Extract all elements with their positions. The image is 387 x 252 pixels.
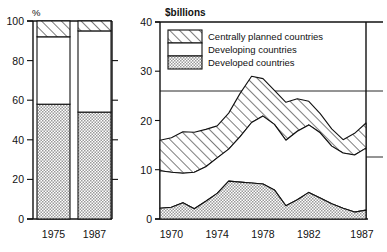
bar-1975: [37, 21, 70, 219]
left-chart-axis-title: %: [32, 7, 41, 18]
legend-swatch-developing: [168, 43, 202, 56]
right-ytick-label-40: 40: [140, 16, 152, 28]
figure-svg: % 100 80 60 40 20: [0, 0, 387, 252]
legend-swatch-centrally-planned: [168, 30, 202, 43]
right-xtick-label-1974: 1974: [206, 228, 230, 240]
bar-1987-developed: [78, 112, 111, 219]
right-xtick-label-1970: 1970: [160, 228, 184, 240]
bar-1975-centrally-planned: [37, 21, 70, 37]
right-chart: $billions 40 30 20 10 0: [140, 7, 383, 240]
legend-label-centrally-planned: Centrally planned countries: [208, 31, 323, 42]
right-xtick-label-1987: 1987: [350, 228, 374, 240]
legend: Centrally planned countries Developing c…: [168, 30, 323, 69]
right-ytick-label-30: 30: [140, 65, 152, 77]
legend-label-developed: Developed countries: [208, 57, 295, 68]
left-ytick-label-0: 0: [18, 213, 24, 225]
right-ytick-label-10: 10: [140, 164, 152, 176]
left-chart: % 100 80 60 40 20: [6, 7, 118, 240]
left-ytick-label-40: 40: [12, 134, 24, 146]
bar-1987-developing: [78, 31, 111, 112]
right-xtick-label-1982: 1982: [297, 228, 321, 240]
left-ytick-label-20: 20: [12, 173, 24, 185]
left-xtick-label-1975: 1975: [42, 228, 66, 240]
left-ytick-label-80: 80: [12, 55, 24, 67]
right-xtick-label-1978: 1978: [251, 228, 275, 240]
bar-1975-developed: [37, 104, 70, 219]
legend-swatch-developed: [168, 56, 202, 69]
legend-label-developing: Developing countries: [208, 44, 297, 55]
left-xtick-label-1987: 1987: [83, 228, 107, 240]
bar-1987-centrally-planned: [78, 21, 111, 31]
bar-1975-developing: [37, 37, 70, 104]
left-ytick-label-100: 100: [6, 15, 24, 27]
right-ytick-label-20: 20: [140, 115, 152, 127]
bar-1987: [78, 21, 111, 219]
right-ytick-label-0: 0: [146, 213, 152, 225]
left-ytick-label-60: 60: [12, 94, 24, 106]
figure-root: % 100 80 60 40 20: [0, 0, 387, 252]
right-chart-axis-title: $billions: [165, 7, 206, 18]
